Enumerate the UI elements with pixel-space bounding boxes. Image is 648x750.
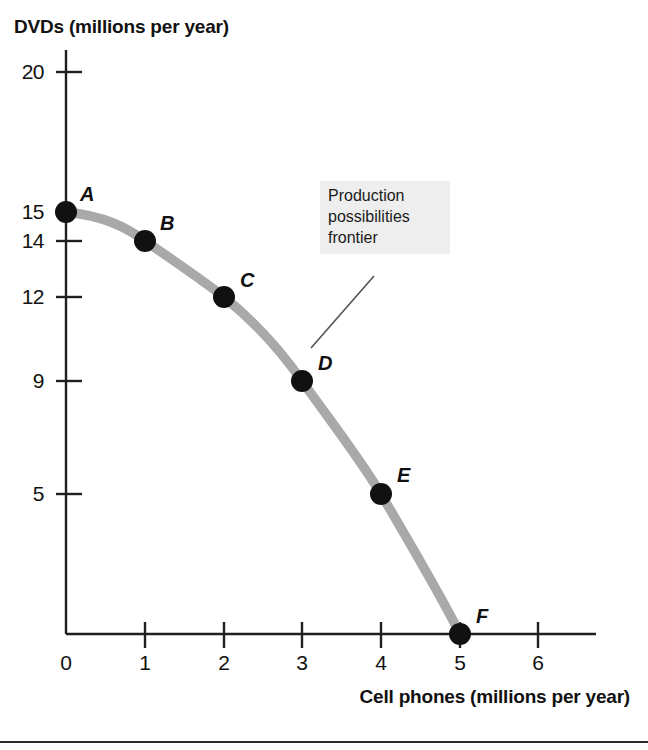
point-label-a: A (80, 183, 94, 206)
x-axis-title: Cell phones (millions per year) (360, 686, 630, 708)
annotation-line-1: Production (328, 185, 444, 206)
annotation-line-3: frontier (328, 227, 444, 248)
x-tick-label-4: 4 (361, 651, 401, 675)
y-tick-label-9: 9 (0, 369, 44, 393)
y-tick-label-5: 5 (0, 482, 44, 506)
bottom-divider (0, 741, 648, 743)
point-label-c: C (240, 269, 254, 292)
data-point-markers (55, 201, 471, 645)
point-label-d: D (318, 352, 332, 375)
data-point-f[interactable] (449, 623, 471, 645)
annotation-line-2: possibilities (328, 206, 444, 227)
point-label-e: E (397, 464, 410, 487)
x-tick-label-5: 5 (440, 651, 480, 675)
x-tick-label-0: 0 (46, 651, 86, 675)
data-point-d[interactable] (291, 370, 313, 392)
point-label-b: B (160, 212, 174, 235)
x-tick-label-2: 2 (204, 651, 244, 675)
x-tick-label-6: 6 (518, 651, 558, 675)
y-tick-label-20: 20 (0, 60, 44, 84)
x-tick-label-1: 1 (125, 651, 165, 675)
y-axis-ticks (56, 72, 82, 494)
y-tick-label-15: 15 (0, 200, 44, 224)
y-tick-label-12: 12 (0, 285, 44, 309)
annotation-leader-line (311, 276, 374, 348)
ppf-curve (66, 212, 460, 634)
data-point-b[interactable] (134, 230, 156, 252)
plot-area (0, 0, 648, 750)
point-label-f: F (476, 605, 488, 628)
ppf-figure: DVDs (millions per year) (0, 0, 648, 750)
ppf-annotation-box: Production possibilities frontier (320, 181, 450, 254)
y-tick-label-14: 14 (0, 229, 44, 253)
data-point-e[interactable] (370, 483, 392, 505)
data-point-a[interactable] (55, 201, 77, 223)
data-point-c[interactable] (213, 286, 235, 308)
x-tick-label-3: 3 (282, 651, 322, 675)
